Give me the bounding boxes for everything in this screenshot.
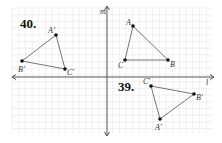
- label-c: C: [118, 61, 124, 70]
- axis-m-label: m: [100, 7, 106, 16]
- label-a-prime-39: A': [154, 123, 162, 132]
- point-b-prime-40: [20, 59, 24, 63]
- problem-number-40: 40.: [20, 16, 36, 31]
- label-a: A: [125, 18, 131, 27]
- point-a-prime-39: [158, 117, 162, 121]
- label-b-prime-39: B': [196, 93, 203, 102]
- axis-l-label: l: [206, 78, 209, 87]
- grid: [12, 8, 212, 134]
- point-a-prime-40: [54, 33, 58, 37]
- axis-l: l: [12, 75, 214, 88]
- label-b: B: [170, 60, 175, 69]
- axis-m: m: [100, 6, 110, 136]
- label-c-prime-39: C': [143, 77, 150, 86]
- label-c-prime-40: C': [67, 68, 74, 77]
- coordinate-diagram: m l 40. 39. A B C A' B' C' A' B' C': [0, 0, 222, 143]
- label-a-prime-40: A': [47, 26, 55, 35]
- point-c: [123, 58, 127, 62]
- triangle-abc: A B C: [118, 18, 175, 70]
- label-b-prime-40: B': [18, 65, 25, 74]
- problem-number-39: 39.: [118, 79, 134, 94]
- point-a: [131, 24, 135, 28]
